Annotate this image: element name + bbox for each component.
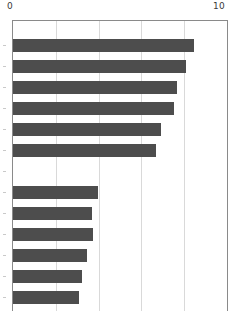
category-tick: [3, 150, 6, 151]
bar-row: [13, 144, 227, 157]
bar: [13, 102, 174, 115]
category-tick: [3, 234, 6, 235]
bar: [13, 270, 82, 283]
bar-row: [13, 186, 227, 199]
bar-row: [13, 207, 227, 220]
category-tick: [3, 213, 6, 214]
bar: [13, 207, 92, 220]
plot-area: [12, 20, 228, 311]
bar: [13, 291, 79, 304]
bar-row: [13, 102, 227, 115]
bar: [13, 39, 194, 52]
bar: [13, 249, 87, 262]
category-tick: [3, 108, 6, 109]
category-tick: [3, 255, 6, 256]
bar: [13, 123, 161, 136]
axis-tick-label-max: 10: [213, 1, 225, 12]
bar: [13, 228, 93, 241]
bar: [13, 60, 186, 73]
category-tick: [3, 192, 6, 193]
bar: [13, 186, 98, 199]
bar-row: [13, 249, 227, 262]
axis-tick-label-min: 0: [7, 1, 13, 12]
category-tick: [3, 129, 6, 130]
bar-row: [13, 39, 227, 52]
bar-row: [13, 165, 227, 178]
bar-row: [13, 81, 227, 94]
bar: [13, 144, 156, 157]
bar-row: [13, 228, 227, 241]
category-tick: [3, 297, 6, 298]
category-tick: [3, 276, 6, 277]
category-tick: [3, 66, 6, 67]
category-tick: [3, 87, 6, 88]
category-tick: [3, 45, 6, 46]
bar-row: [13, 270, 227, 283]
bar-row: [13, 291, 227, 304]
bar: [13, 81, 177, 94]
bar-row: [13, 60, 227, 73]
category-tick: [3, 171, 6, 172]
bar-row: [13, 123, 227, 136]
